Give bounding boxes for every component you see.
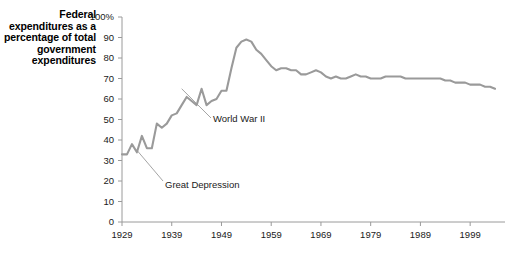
- annotation-great-depression: Great Depression: [165, 180, 239, 190]
- plot-area: [0, 0, 510, 261]
- y-axis-ticks: [118, 17, 122, 222]
- great-depression-leader-line: [137, 150, 163, 181]
- chart-figure: Federal expenditures as a percentage of …: [0, 0, 510, 261]
- data-series-line: [122, 40, 495, 155]
- annotation-world-war-ii: World War II: [213, 114, 265, 124]
- x-axis-ticks: [122, 222, 470, 226]
